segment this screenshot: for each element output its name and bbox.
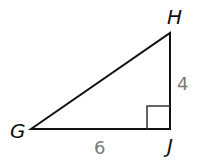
triangle-diagram: G H J 4 6 [0, 0, 198, 162]
right-angle-marker [147, 106, 170, 129]
vertex-label-j: J [163, 134, 173, 158]
triangle-ghj [31, 33, 170, 129]
vertex-label-g: G [10, 119, 26, 143]
vertex-label-h: H [167, 5, 182, 29]
side-label-gj: 6 [94, 137, 105, 158]
side-label-hj: 4 [177, 73, 188, 94]
